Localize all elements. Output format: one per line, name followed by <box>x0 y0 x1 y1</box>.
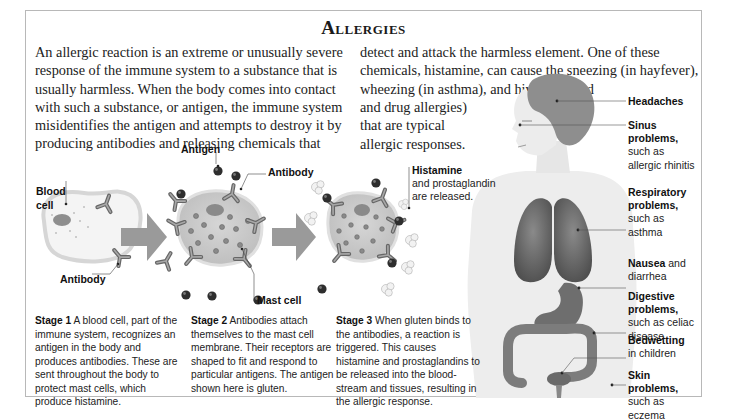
stage-3-caption: Stage 3 When gluten binds to the antibod… <box>336 314 482 409</box>
label-histamine: Histamine and prostaglandin are released… <box>412 164 502 204</box>
label-antibody-stage1: Antibody <box>60 273 106 286</box>
human-body-illustration <box>468 74 637 398</box>
label-mast-cell: Mast cell <box>257 294 301 307</box>
stage-1-caption: Stage 1 A blood cell, part of the immune… <box>35 314 185 409</box>
reacting-mast-cell-illustration <box>305 178 419 296</box>
allergies-infographic: Allergies An allergic reaction is an ext… <box>25 10 702 397</box>
label-antigen: Antigen <box>181 143 220 156</box>
label-antibody-stage2: Antibody <box>268 166 314 179</box>
symptom-bedwetting: Bedwettingin children <box>628 334 700 360</box>
symptom-headaches: Headaches <box>628 95 683 108</box>
symptom-respiratory: Respiratory problems, such as asthma <box>628 186 700 239</box>
symptom-sinus: Sinus problems, such as allergic rhiniti… <box>628 119 700 172</box>
label-blood-cell: Blood cell <box>36 184 66 212</box>
stage-2-caption: Stage 2 Antibodies attach themselves to … <box>191 314 339 395</box>
symptom-nausea: Nausea and diarrhea <box>628 257 700 283</box>
symptom-skin: Skin problems, such as eczema <box>628 369 703 419</box>
